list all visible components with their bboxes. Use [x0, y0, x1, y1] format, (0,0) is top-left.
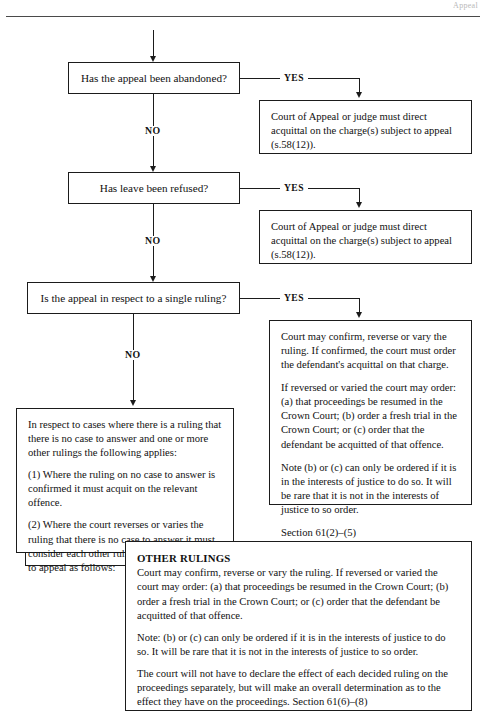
outcome-paragraph: Court of Appeal or judge must direct acq…	[271, 220, 460, 262]
outcome-paragraph: (1) Where the ruling on no case to answe…	[28, 468, 222, 510]
outcome-paragraph: If reversed or varied the court may orde…	[281, 381, 460, 451]
outcome-section-reference: Section 61(2)–(5)	[281, 526, 460, 540]
outcome-box-single-ruling: Court may confirm, reverse or vary the r…	[269, 320, 472, 505]
outcome-paragraph: Court may confirm, reverse or vary the r…	[137, 566, 460, 622]
decision-box-leave-refused[interactable]: Has leave been refused?	[68, 172, 240, 204]
outcome-box-leave-refused: Court of Appeal or judge must direct acq…	[259, 210, 472, 264]
yes-label-1: YES	[280, 73, 308, 83]
yes-connector-2-arrow	[356, 202, 362, 208]
yes-connector-1-arrow	[356, 92, 362, 98]
yes-connector-3-arrow	[356, 312, 362, 318]
no-label-1: NO	[141, 126, 165, 136]
outcome-paragraph: Court of Appeal or judge must direct acq…	[271, 110, 460, 152]
outcome-box-multiple-rulings: In respect to cases where there is a rul…	[16, 408, 234, 553]
decision-question-text: Has the appeal been abandoned?	[81, 71, 227, 85]
decision-question-text: Has leave been refused?	[100, 181, 208, 195]
entry-connector-line	[153, 30, 154, 58]
flowchart-page: Appeal Has the appeal been abandoned? YE…	[0, 0, 486, 723]
outcome-box-other-rulings: OTHER RULINGS Court may confirm, reverse…	[125, 541, 472, 711]
running-header-text: Appeal	[453, 1, 478, 12]
yes-label-3: YES	[280, 293, 308, 303]
outcome-paragraph: The court will not have to declare the e…	[137, 667, 460, 709]
other-rulings-connector-horizontal	[25, 565, 125, 566]
decision-box-single-ruling[interactable]: Is the appeal in respect to a single rul…	[27, 282, 240, 314]
header-rule	[6, 16, 480, 17]
outcome-paragraph: Court may confirm, reverse or vary the r…	[281, 330, 460, 372]
outcome-paragraph: Note: (b) or (c) can only be ordered if …	[137, 631, 460, 659]
no-connector-3-arrow	[130, 400, 136, 406]
outcome-paragraph: In respect to cases where there is a rul…	[28, 418, 222, 460]
decision-question-text: Is the appeal in respect to a single rul…	[41, 291, 227, 305]
no-label-2: NO	[141, 236, 165, 246]
other-rulings-connector-vertical	[25, 553, 26, 565]
outcome-box-appeal-abandoned: Court of Appeal or judge must direct acq…	[259, 100, 472, 154]
other-rulings-heading: OTHER RULINGS	[137, 551, 460, 565]
yes-label-2: YES	[280, 183, 308, 193]
outcome-paragraph: Note (b) or (c) can only be ordered if i…	[281, 461, 460, 517]
decision-box-appeal-abandoned[interactable]: Has the appeal been abandoned?	[68, 62, 240, 94]
no-label-3: NO	[121, 350, 145, 360]
